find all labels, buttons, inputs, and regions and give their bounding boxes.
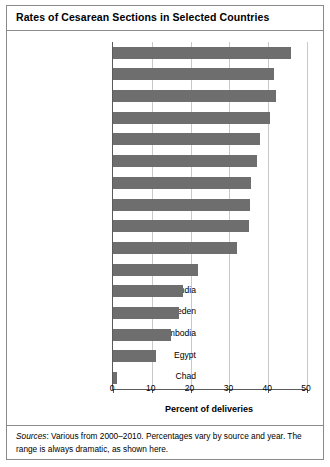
bar-row: Dominican Republic (7, 64, 306, 86)
bar-row: Italy (7, 129, 306, 151)
bar-row: Chile (7, 107, 306, 129)
bar-row: Chad (7, 367, 306, 389)
bar (113, 90, 276, 102)
source-note: Sources: Various from 2000–2010. Percent… (16, 430, 314, 455)
bar (113, 372, 117, 384)
x-gridline (307, 42, 308, 389)
bar (113, 112, 270, 124)
bar (113, 199, 250, 211)
bar (113, 155, 257, 167)
bar-row: Sweden (7, 302, 306, 324)
bar (113, 285, 183, 297)
figure-title-bar: Rates of Cesarean Sections in Selected C… (7, 6, 323, 31)
source-note-label: Sources (16, 431, 46, 441)
bar-row: Mexico (7, 150, 306, 172)
bar (113, 264, 198, 276)
bar-row: Egypt (7, 346, 306, 368)
bar (113, 68, 274, 80)
bar (113, 177, 251, 189)
plot-wrapper: Percent of deliveries 01020304050ChinaDo… (7, 31, 323, 425)
bar (113, 350, 156, 362)
bar (113, 47, 291, 59)
bar (113, 329, 171, 341)
bar-row: Nigeria (7, 216, 306, 238)
bar-row: India (7, 281, 306, 303)
bar-row: Costa Rica (7, 259, 306, 281)
bar-row: United States (7, 237, 306, 259)
footer-divider (7, 425, 323, 426)
bar (113, 307, 179, 319)
x-axis-label: Percent of deliveries (112, 404, 306, 414)
bar-row: Turkey (7, 172, 306, 194)
page-title: Rates of Cesarean Sections in Selected C… (16, 11, 269, 23)
bar (113, 133, 260, 145)
bar-row: Paraguay (7, 85, 306, 107)
source-note-text: : Various from 2000–2010. Percentages va… (16, 431, 302, 454)
bar (113, 242, 237, 254)
bar (113, 220, 249, 232)
bar-row: China (7, 42, 306, 64)
figure-panel: Rates of Cesarean Sections in Selected C… (6, 5, 324, 460)
bar-row: Cambodia (7, 324, 306, 346)
bar-row: Vietnam (7, 194, 306, 216)
